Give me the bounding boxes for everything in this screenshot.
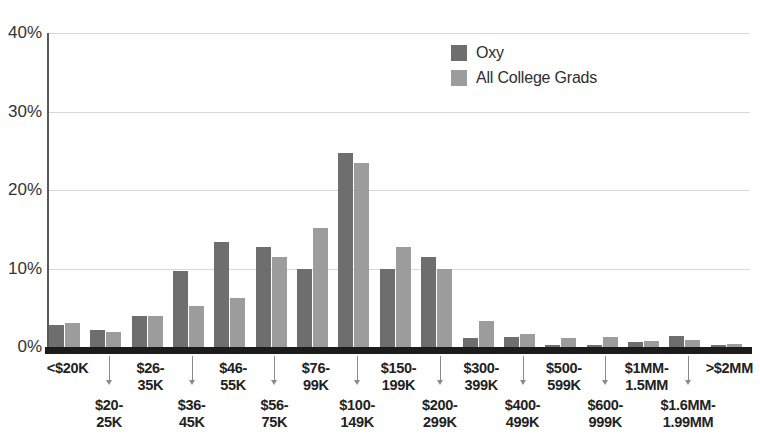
arrow-head-icon xyxy=(437,380,443,385)
x-tick-arrow xyxy=(188,356,197,386)
x-tick-label: $1.6MM- 1.99MM xyxy=(652,397,724,431)
x-tick-label: $500- 599K xyxy=(528,360,600,394)
x-tick-label: $300- 399K xyxy=(445,360,517,394)
x-tick-label: $200- 299K xyxy=(404,397,476,431)
x-tick-label: $400- 499K xyxy=(487,397,559,431)
arrow-head-icon xyxy=(602,380,608,385)
x-tick-label: $46- 55K xyxy=(197,360,269,394)
x-tick-label: $150- 199K xyxy=(363,360,435,394)
arrow-head-icon xyxy=(520,380,526,385)
arrow-head-icon xyxy=(685,380,691,385)
x-tick-arrow xyxy=(601,356,610,386)
arrow-head-icon xyxy=(106,380,112,385)
x-tick-label: $26- 35K xyxy=(114,360,186,394)
x-tick-label: <$20K xyxy=(32,360,104,377)
x-tick-label: $100- 149K xyxy=(321,397,393,431)
x-tick-arrow xyxy=(684,356,693,386)
x-tick-arrow xyxy=(353,356,362,386)
x-tick-arrow xyxy=(270,356,279,386)
x-tick-arrow xyxy=(105,356,114,386)
x-axis-labels: <$20K$20- 25K$26- 35K$36- 45K$46- 55K$56… xyxy=(0,0,760,442)
x-tick-arrow xyxy=(519,356,528,386)
arrow-head-icon xyxy=(189,380,195,385)
x-tick-label: $76- 99K xyxy=(280,360,352,394)
x-tick-label: >$2MM xyxy=(693,360,760,377)
arrow-stem xyxy=(523,356,524,381)
bar-chart: 40%30%20%10%0% Oxy All College Grads <$2… xyxy=(0,0,760,442)
x-tick-label: $600- 999K xyxy=(569,397,641,431)
x-tick-label: $20- 25K xyxy=(73,397,145,431)
x-tick-label: $1MM- 1.5MM xyxy=(611,360,683,394)
arrow-stem xyxy=(440,356,441,381)
arrow-stem xyxy=(357,356,358,381)
arrow-head-icon xyxy=(354,380,360,385)
x-tick-label: $56- 75K xyxy=(238,397,310,431)
arrow-stem xyxy=(192,356,193,381)
x-tick-arrow xyxy=(436,356,445,386)
arrow-stem xyxy=(688,356,689,381)
arrow-head-icon xyxy=(271,380,277,385)
arrow-stem xyxy=(109,356,110,381)
arrow-stem xyxy=(274,356,275,381)
arrow-stem xyxy=(605,356,606,381)
x-tick-label: $36- 45K xyxy=(156,397,228,431)
